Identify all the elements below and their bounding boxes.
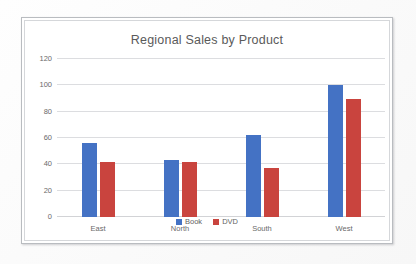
bar-group: West (303, 59, 385, 217)
bars (57, 59, 139, 217)
chart-card: Regional Sales by Product 02040608010012… (24, 20, 390, 241)
legend-item-dvd[interactable]: DVD (213, 217, 238, 226)
y-axis-tick-label: 40 (44, 159, 52, 168)
plot-area: 020406080100120 EastNorthSouthWest (57, 59, 385, 217)
bars (303, 59, 385, 217)
bar-groups: EastNorthSouthWest (57, 59, 385, 217)
y-axis-tick-label: 20 (44, 185, 52, 194)
bar-dvd-north[interactable] (182, 162, 197, 217)
chart-frame: Regional Sales by Product 02040608010012… (21, 17, 393, 244)
chart-title: Regional Sales by Product (25, 33, 389, 47)
bar-book-east[interactable] (82, 143, 97, 217)
bars (139, 59, 221, 217)
y-axis-tick-label: 80 (44, 106, 52, 115)
chart-legend: BookDVD (25, 217, 389, 226)
bar-dvd-south[interactable] (264, 168, 279, 217)
y-axis-tick-label: 120 (39, 54, 52, 63)
legend-label: Book (185, 217, 202, 226)
bar-book-west[interactable] (328, 85, 343, 217)
legend-item-book[interactable]: Book (176, 217, 202, 226)
y-axis-tick-label: 100 (39, 80, 52, 89)
bar-dvd-east[interactable] (100, 162, 115, 217)
page-background: Regional Sales by Product 02040608010012… (0, 0, 416, 264)
legend-label: DVD (222, 217, 238, 226)
legend-swatch-icon (176, 219, 182, 225)
legend-swatch-icon (213, 219, 219, 225)
bar-book-south[interactable] (246, 135, 261, 217)
bars (221, 59, 303, 217)
bar-dvd-west[interactable] (346, 99, 361, 218)
bar-group: East (57, 59, 139, 217)
y-axis-tick-label: 60 (44, 133, 52, 142)
bar-group: North (139, 59, 221, 217)
bar-group: South (221, 59, 303, 217)
bar-book-north[interactable] (164, 160, 179, 217)
